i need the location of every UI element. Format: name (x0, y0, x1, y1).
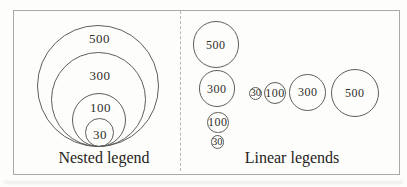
scan-edge-artifact (4, 181, 403, 184)
legend-value-label-500: 500 (345, 87, 365, 99)
panel-divider-dashed-line (180, 11, 181, 171)
legend-value-label-100: 100 (265, 87, 285, 99)
legend-value-label-30: 30 (93, 127, 107, 140)
legend-value-label-300: 300 (207, 83, 227, 95)
legend-value-label-500: 500 (206, 39, 226, 51)
legend-value-label-100: 100 (208, 116, 228, 128)
legend-value-label-300: 300 (90, 69, 111, 82)
legend-value-label-100: 100 (90, 101, 111, 114)
linear-legends-caption: Linear legends (245, 149, 340, 167)
legend-value-label-500: 500 (89, 32, 110, 45)
legend-value-label-30: 30 (250, 88, 261, 99)
legend-comparison-figure: 50030010030 5003001003030100300500 Neste… (0, 0, 407, 187)
nested-legend-caption: Nested legend (58, 149, 149, 167)
legend-value-label-300: 300 (298, 86, 318, 98)
legend-value-label-30: 30 (212, 137, 223, 148)
